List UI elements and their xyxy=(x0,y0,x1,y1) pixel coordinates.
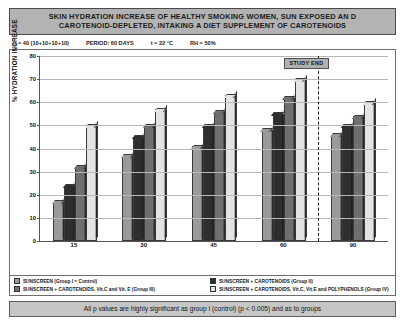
x-tick-label-45: 45 xyxy=(179,242,249,248)
bar xyxy=(273,114,284,241)
bar xyxy=(342,125,353,241)
y-tick-mark xyxy=(37,149,40,150)
legend-label-group-i: SUNSCREEN (Group I = Control) xyxy=(23,279,97,284)
significance-footer: All p values are highly significant as g… xyxy=(9,301,396,318)
legend-swatch-icon xyxy=(14,286,20,292)
param-sample-size: n = 40 (10+10+10+10) xyxy=(13,40,69,46)
bar xyxy=(144,125,155,241)
legend-row-2: SUNSCREEN + CAROTENOIDS, Vit.C and Vit. … xyxy=(14,286,391,292)
legend-label-group-iv: SUNSCREEN + CAROTENOIDS, Vit.C, Vit.E an… xyxy=(219,287,389,292)
legend-swatch-icon xyxy=(210,278,216,284)
gridline xyxy=(40,102,388,103)
y-tick-mark xyxy=(37,218,40,219)
y-tick-mark xyxy=(37,56,40,57)
y-tick-label: 0 xyxy=(33,238,36,244)
x-tick-label-60: 60 xyxy=(248,242,318,248)
y-tick-mark xyxy=(37,172,40,173)
plot-wrapper: 01020304050607080 STUDY END 1530456090 xyxy=(24,56,388,269)
study-parameters: n = 40 (10+10+10+10) PERIOD: 60 DAYS t =… xyxy=(13,40,396,46)
x-tick-label-30: 30 xyxy=(109,242,179,248)
study-end-badge: STUDY END xyxy=(284,58,330,69)
legend-item-group-ii: SUNSCREEN + CAROTENOIDS (Group II) xyxy=(210,278,391,284)
x-tick-label-15: 15 xyxy=(39,242,109,248)
gridline xyxy=(40,172,388,173)
legend-item-group-iii: SUNSCREEN + CAROTENOIDS, Vit.C and Vit. … xyxy=(14,286,210,292)
legend-row-1: SUNSCREEN (Group I = Control) SUNSCREEN … xyxy=(14,278,391,284)
bar xyxy=(353,116,364,241)
param-period: PERIOD: 60 DAYS xyxy=(86,40,134,46)
y-tick-label: 30 xyxy=(30,169,36,175)
y-tick-label: 40 xyxy=(30,146,36,152)
bar xyxy=(122,156,133,242)
y-tick-mark xyxy=(37,79,40,80)
legend-label-group-iii: SUNSCREEN + CAROTENOIDS, Vit.C and Vit. … xyxy=(23,287,155,292)
param-humidity: RH = 50% xyxy=(190,40,216,46)
y-tick-label: 60 xyxy=(30,99,36,105)
y-tick-label: 50 xyxy=(30,122,36,128)
x-tick-label-90: 90 xyxy=(318,242,388,248)
plot-area: STUDY END xyxy=(39,56,388,242)
legend-item-group-i: SUNSCREEN (Group I = Control) xyxy=(14,278,210,284)
param-temperature: t = 22 °C xyxy=(151,40,173,46)
gridline xyxy=(40,79,388,80)
legend-item-group-iv: SUNSCREEN + CAROTENOIDS, Vit.C, Vit.E an… xyxy=(210,286,391,292)
x-axis-labels: 1530456090 xyxy=(39,242,388,248)
gridline xyxy=(40,56,388,57)
gridline xyxy=(40,125,388,126)
bar xyxy=(203,125,214,241)
y-tick-label: 20 xyxy=(30,192,36,198)
y-tick-label: 70 xyxy=(30,76,36,82)
legend-label-group-ii: SUNSCREEN + CAROTENOIDS (Group II) xyxy=(219,279,313,284)
chart-plot-frame: % HYDRATION INCREASE 01020304050607080 S… xyxy=(9,49,396,276)
bar xyxy=(295,79,306,241)
y-axis-label: % HYDRATION INCREASE xyxy=(11,19,18,102)
y-tick-mark xyxy=(37,195,40,196)
y-tick-mark xyxy=(37,125,40,126)
bar xyxy=(75,167,86,241)
legend-swatch-icon xyxy=(210,286,216,292)
bar xyxy=(53,202,64,241)
gridline xyxy=(40,149,388,150)
bar xyxy=(214,112,225,242)
bar xyxy=(133,137,144,241)
chart-title-line-2: CAROTENOID-DEPLETED, INTAKING A DIET SUP… xyxy=(16,21,389,30)
bar xyxy=(331,135,342,241)
bar xyxy=(192,146,203,241)
y-tick-label: 10 xyxy=(30,215,36,221)
study-end-line xyxy=(318,56,319,241)
chart-page: SKIN HYDRATION INCREASE OF HEALTHY SMOKI… xyxy=(0,0,405,324)
bar-side-face xyxy=(304,74,307,240)
y-axis-ticks: 01020304050607080 xyxy=(24,56,38,241)
gridline xyxy=(40,218,388,219)
gridline xyxy=(40,195,388,196)
bar xyxy=(86,125,97,241)
bar xyxy=(155,109,166,241)
bar-side-face xyxy=(95,120,98,240)
chart-legend: SUNSCREEN (Group I = Control) SUNSCREEN … xyxy=(9,276,396,296)
y-tick-mark xyxy=(37,102,40,103)
bar xyxy=(262,130,273,241)
legend-swatch-icon xyxy=(14,278,20,284)
chart-title-line-1: SKIN HYDRATION INCREASE OF HEALTHY SMOKI… xyxy=(16,12,389,21)
bar xyxy=(225,95,236,241)
bar xyxy=(284,98,295,241)
chart-title-banner: SKIN HYDRATION INCREASE OF HEALTHY SMOKI… xyxy=(9,8,396,35)
y-tick-label: 80 xyxy=(30,53,36,59)
